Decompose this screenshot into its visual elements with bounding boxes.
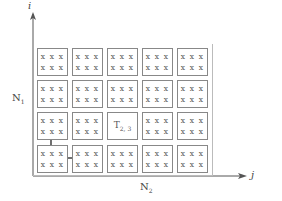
tile-row-text: x x x bbox=[146, 62, 169, 73]
tile: x x xx x x bbox=[177, 145, 208, 173]
tile: x x xx x x bbox=[37, 112, 68, 140]
tile-row-text: x x x bbox=[76, 62, 99, 73]
tile-row-text: x x x bbox=[76, 148, 99, 159]
tile-row-text: x x x bbox=[41, 94, 64, 105]
n2-label: N2 bbox=[140, 181, 153, 194]
tile-row-text: x x x bbox=[76, 83, 99, 94]
tile-row-text: x x x bbox=[146, 115, 169, 126]
tile: x x xx x x bbox=[37, 145, 68, 173]
tile-row-text: x x x bbox=[41, 115, 64, 126]
tile-row-text: x x x bbox=[111, 83, 134, 94]
tile: x x xx x x bbox=[107, 80, 138, 108]
tile-row-text: x x x bbox=[41, 126, 64, 137]
tile-row-text: x x x bbox=[181, 115, 204, 126]
tile: x x xx x x bbox=[177, 48, 208, 76]
tile-row-text: x x x bbox=[146, 159, 169, 170]
tile: x x xx x x bbox=[142, 48, 173, 76]
tile-row-text: x x x bbox=[41, 159, 64, 170]
tile: x x xx x x bbox=[142, 145, 173, 173]
tile-row-text: x x x bbox=[181, 51, 204, 62]
tile-row-text: x x x bbox=[181, 159, 204, 170]
tile-row-text: x x x bbox=[111, 51, 134, 62]
tile-row-text: x x x bbox=[76, 159, 99, 170]
tile-row-text: x x x bbox=[111, 159, 134, 170]
tile-row-text: x x x bbox=[181, 148, 204, 159]
tile: x x xx x x bbox=[72, 48, 103, 76]
tile-t23: T2, 3 bbox=[107, 112, 138, 140]
tile-row-text: x x x bbox=[76, 51, 99, 62]
tile-row-text: x x x bbox=[146, 148, 169, 159]
tile-row-text: x x x bbox=[181, 62, 204, 73]
tile-row-text: x x x bbox=[181, 83, 204, 94]
n1-label: N1 bbox=[12, 92, 25, 105]
tile-row-text: x x x bbox=[146, 83, 169, 94]
tile-row-text: x x x bbox=[111, 62, 134, 73]
tile-row-text: x x x bbox=[76, 115, 99, 126]
tile: x x xx x x bbox=[177, 80, 208, 108]
tile-row-text: x x x bbox=[146, 94, 169, 105]
tile-row-text: x x x bbox=[111, 94, 134, 105]
tile-row-text: x x x bbox=[146, 126, 169, 137]
tile: x x xx x x bbox=[177, 112, 208, 140]
tile-row-text: x x x bbox=[181, 94, 204, 105]
tile-subscript: 2, 3 bbox=[120, 125, 131, 132]
vertical-axis-label: i bbox=[28, 0, 31, 11]
tile-row-text: x x x bbox=[76, 94, 99, 105]
tile: x x xx x x bbox=[142, 80, 173, 108]
tile-row-text: x x x bbox=[41, 83, 64, 94]
tile-row-text: x x x bbox=[41, 51, 64, 62]
horizontal-axis-label: j bbox=[251, 169, 254, 180]
tile: x x xx x x bbox=[107, 145, 138, 173]
tile: x x xx x x bbox=[37, 48, 68, 76]
tile-row-text: x x x bbox=[181, 126, 204, 137]
tile: x x xx x x bbox=[72, 112, 103, 140]
tile: x x xx x x bbox=[72, 80, 103, 108]
tile: x x xx x x bbox=[72, 145, 103, 173]
tile-row-text: x x x bbox=[76, 126, 99, 137]
tile: x x xx x x bbox=[142, 112, 173, 140]
tile-row-text: x x x bbox=[41, 62, 64, 73]
tile-row-text: x x x bbox=[41, 148, 64, 159]
tile-row-text: x x x bbox=[111, 148, 134, 159]
tile-row-text: x x x bbox=[146, 51, 169, 62]
tile: x x xx x x bbox=[37, 80, 68, 108]
tile: x x xx x x bbox=[107, 48, 138, 76]
